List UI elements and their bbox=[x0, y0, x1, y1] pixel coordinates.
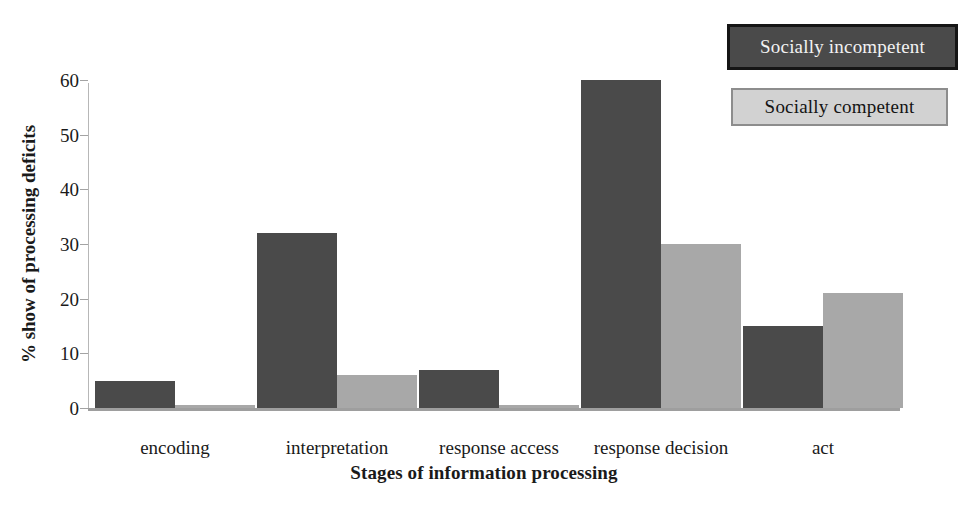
bar-response-decision-socially-incompetent[interactable] bbox=[581, 80, 661, 408]
legend-item-socially-incompetent[interactable]: Socially incompetent bbox=[727, 24, 958, 70]
x-axis-line bbox=[88, 408, 900, 411]
y-tick-mark bbox=[80, 135, 88, 136]
x-axis-title: Stages of information processing bbox=[0, 462, 968, 484]
legend-label-socially-incompetent: Socially incompetent bbox=[760, 36, 925, 58]
y-tick-label: 40 bbox=[60, 180, 79, 199]
y-tick-label: 0 bbox=[70, 399, 80, 418]
y-tick-label: 60 bbox=[60, 71, 79, 90]
x-axis-label-act: act bbox=[812, 438, 834, 457]
bar-response-access-socially-competent[interactable] bbox=[499, 405, 579, 408]
x-axis-label-encoding: encoding bbox=[140, 438, 210, 457]
y-tick-label: 10 bbox=[60, 344, 79, 363]
x-axis-label-response-decision: response decision bbox=[594, 438, 729, 457]
plot-area: 0102030405060 bbox=[88, 80, 900, 408]
bar-encoding-socially-incompetent[interactable] bbox=[95, 381, 175, 408]
bar-act-socially-incompetent[interactable] bbox=[743, 326, 823, 408]
bar-response-access-socially-incompetent[interactable] bbox=[419, 370, 499, 408]
bar-response-decision-socially-competent[interactable] bbox=[661, 244, 741, 408]
y-tick-mark bbox=[80, 80, 88, 81]
bar-interpretation-socially-incompetent[interactable] bbox=[257, 233, 337, 408]
x-axis-label-response-access: response access bbox=[439, 438, 559, 457]
y-tick-mark bbox=[80, 244, 88, 245]
y-axis-line bbox=[88, 83, 89, 408]
y-tick-mark bbox=[80, 189, 88, 190]
y-tick-mark bbox=[80, 353, 88, 354]
x-axis-label-interpretation: interpretation bbox=[286, 438, 388, 457]
y-tick-mark bbox=[80, 299, 88, 300]
y-tick-mark bbox=[80, 408, 88, 409]
y-tick-label: 50 bbox=[60, 125, 79, 144]
bar-interpretation-socially-competent[interactable] bbox=[337, 375, 417, 408]
y-axis-title: % show of processing deficits bbox=[17, 80, 41, 408]
y-tick-label: 20 bbox=[60, 289, 79, 308]
y-tick-label: 30 bbox=[60, 235, 79, 254]
bar-act-socially-competent[interactable] bbox=[823, 293, 903, 408]
bar-chart: Socially incompetent Socially competent … bbox=[0, 0, 968, 506]
bar-encoding-socially-competent[interactable] bbox=[175, 405, 255, 408]
